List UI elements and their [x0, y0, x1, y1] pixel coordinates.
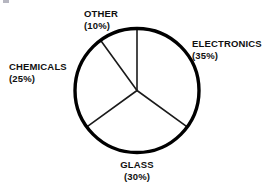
pie-label-chemicals: CHEMICALS (25%): [9, 61, 67, 84]
pie-label-other: OTHER (10%): [84, 8, 118, 31]
pie-label-other-percent: (10%): [84, 20, 118, 32]
pie-label-electronics-percent: (35%): [192, 50, 262, 62]
pie-label-other-name: OTHER: [84, 8, 118, 20]
pie-label-glass: GLASS (30%): [120, 159, 153, 182]
pie-label-chemicals-percent: (25%): [9, 73, 67, 85]
pie-label-chemicals-name: CHEMICALS: [9, 61, 67, 73]
pie-chart-figure: OTHER (10%) ELECTRONICS (35%) CHEMICALS …: [0, 0, 277, 186]
pie-label-glass-percent: (30%): [120, 171, 153, 183]
pie-label-electronics: ELECTRONICS (35%): [192, 38, 262, 61]
pie-label-glass-name: GLASS: [120, 159, 153, 171]
pie-label-electronics-name: ELECTRONICS: [192, 38, 262, 50]
